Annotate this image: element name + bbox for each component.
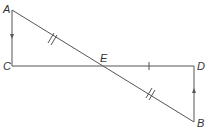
label-c: C	[3, 60, 11, 72]
double-tick-eb	[146, 88, 155, 100]
label-a: A	[2, 3, 10, 15]
label-d: D	[197, 60, 205, 72]
arrow-down-icon	[10, 34, 14, 39]
arrow-up-icon	[192, 88, 196, 93]
label-e: E	[100, 52, 108, 64]
double-tick-ae	[48, 33, 57, 45]
geometry-diagram: A C E D B	[0, 0, 206, 132]
label-b: B	[197, 117, 204, 129]
